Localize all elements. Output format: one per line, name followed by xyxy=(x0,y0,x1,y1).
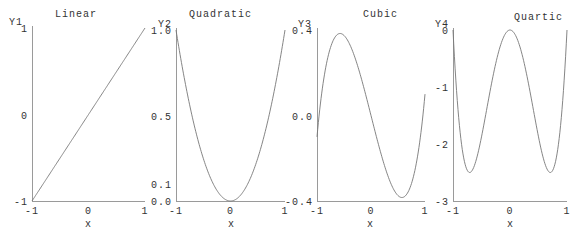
chart-figure: Linear Y1 x Quadratic Y2 x Cubic Y3 x Qu… xyxy=(0,0,586,233)
x-tick-label: 0 xyxy=(506,206,513,217)
y-tick-label: 0.5 xyxy=(151,112,172,123)
x-tick-label: -1 xyxy=(169,206,183,217)
y-tick-label: -2 xyxy=(435,140,449,151)
x-tick-label: -1 xyxy=(25,206,39,217)
panel-quadratic: Quadratic Y2 x xyxy=(158,9,252,230)
y-tick-label: 0.0 xyxy=(292,112,313,123)
x-axis-label: x xyxy=(228,219,235,230)
y-tick-label: 1.0 xyxy=(151,26,172,37)
y-tick-label: 0 xyxy=(442,26,449,37)
x-tick-label: 1 xyxy=(141,206,148,217)
plot-area-linear: -101-101 xyxy=(14,24,149,217)
x-tick-label: 0 xyxy=(85,206,92,217)
plot-area-cubic: -0.40.00.4-101 xyxy=(285,26,429,217)
x-tick-label: -1 xyxy=(446,206,460,217)
x-tick-label: 0 xyxy=(367,206,374,217)
data-curve xyxy=(453,30,567,172)
chart-canvas: Linear Y1 x Quadratic Y2 x Cubic Y3 x Qu… xyxy=(0,0,586,233)
y-tick-label: 0.1 xyxy=(151,180,172,191)
plot-area-quartic: -3-2-10-101 xyxy=(435,26,571,217)
x-tick-label: -1 xyxy=(310,206,324,217)
x-tick-label: 0 xyxy=(227,206,234,217)
y-tick-label: -0.4 xyxy=(285,197,313,208)
y-tick-label: 0.4 xyxy=(292,26,313,37)
panel-cubic: Cubic Y3 x xyxy=(298,9,398,230)
y-tick-label: -1 xyxy=(435,83,449,94)
y-tick-label: 0 xyxy=(21,111,28,122)
x-axis-label: x xyxy=(367,219,374,230)
plot-area-quadratic: 0.00.10.51.0-101 xyxy=(151,26,289,217)
x-axis-label: x xyxy=(507,219,514,230)
x-tick-label: 1 xyxy=(563,206,570,217)
data-curve xyxy=(317,33,425,197)
panel-title: Quartic xyxy=(514,12,563,23)
panel-title: Quadratic xyxy=(189,9,252,20)
x-tick-label: 1 xyxy=(421,206,428,217)
data-curve xyxy=(32,28,145,201)
panel-title: Cubic xyxy=(363,9,398,20)
y-tick-label: 1 xyxy=(21,24,28,35)
x-axis-label: x xyxy=(85,219,92,230)
panel-title: Linear xyxy=(55,9,97,20)
data-curve xyxy=(176,30,285,201)
plot-areas: -101-1010.00.10.51.0-101-0.40.00.4-101-3… xyxy=(14,24,571,217)
